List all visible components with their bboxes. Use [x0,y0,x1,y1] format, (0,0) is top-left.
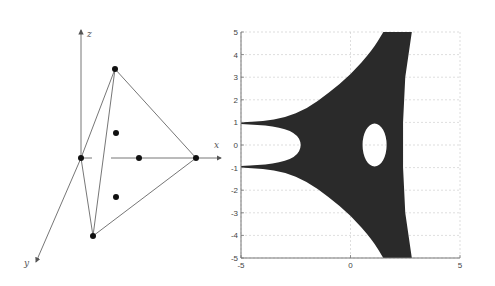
y-tick-label: -4 [231,231,239,240]
y-tick-label: 0 [234,141,239,150]
point-on-x-axis [136,155,142,161]
point-lower [113,194,119,200]
x-tick-labels: -505 [237,255,462,270]
y-tick-label: -1 [231,164,239,173]
y-axis [36,158,81,262]
edge-apex-xvertex [115,69,196,158]
y-tick-label: -2 [231,186,239,195]
x-tick-label: -5 [237,261,245,270]
y-tick-label: 5 [234,28,239,37]
edge-origin-bottom [81,158,93,236]
vertex-origin [78,155,84,161]
figure: z x y 543210-1-2-3-4-5 -505 [0,0,495,286]
y-tick-labels: 543210-1-2-3-4-5 [231,28,244,263]
y-axis-label: y [23,258,30,268]
vertex-x [193,155,199,161]
edge-bottom-xvertex [93,158,196,236]
z-axis-label: z [86,29,92,39]
x-tick-label: 0 [348,261,353,270]
y-tick-label: 4 [234,51,239,60]
vertex-bottom [90,233,96,239]
edge-origin-apex [81,69,115,158]
point-upper [113,130,119,136]
vertex-apex [112,66,118,72]
region-plot: 543210-1-2-3-4-5 -505 [231,28,463,270]
y-tick-label: 3 [234,73,239,82]
edge-apex-bottom [93,69,115,236]
x-tick-label: 5 [458,261,463,270]
y-tick-label: 1 [234,118,239,127]
y-tick-label: 2 [234,96,239,105]
left-diagram: z x y [23,29,221,268]
y-tick-label: -3 [231,209,239,218]
x-axis-label: x [214,140,219,150]
